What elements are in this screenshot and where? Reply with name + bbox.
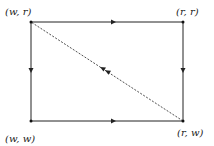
double-arrow-up-left-icon [100,67,111,75]
node-label-rr: (r, r) [176,6,199,17]
state-diagram: (w, r) (r, r) (w, w) (r, w) [0,0,214,146]
node-label-wr: (w, r) [5,6,31,17]
node-label-ww: (w, w) [5,133,35,144]
arrow-right-icon [111,20,116,25]
node-dot-rr [182,21,185,24]
node-dot-ww [30,120,33,123]
arrow-right-icon [111,119,116,124]
arrow-down-icon [181,68,186,73]
arrow-down-icon [29,68,34,73]
node-dot-wr [30,21,33,24]
node-label-rw: (r, w) [177,127,204,138]
node-dot-rw [182,120,185,123]
